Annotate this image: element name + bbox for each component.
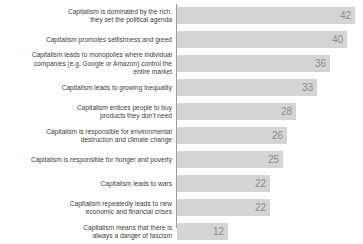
bar-value-label: 42 <box>340 11 351 21</box>
bar: 22 <box>177 175 270 192</box>
bar: 40 <box>177 31 347 48</box>
bar-row: Capitalism leads to monopolies where ind… <box>0 52 363 76</box>
bar-value-label: 40 <box>332 35 343 45</box>
bar-container: 25 <box>177 151 283 168</box>
bar-value-label: 12 <box>213 227 224 237</box>
bar-row: Capitalism leads to growing inequality33 <box>0 76 363 100</box>
bar-row: Capitalism is responsible for hunger and… <box>0 148 363 172</box>
category-label: Capitalism is dominated by the rich, the… <box>0 8 172 25</box>
bar: 33 <box>177 79 317 96</box>
bar-row: Capitalism repeatedly leads to new econo… <box>0 196 363 220</box>
bar-row: Capitalism leads to wars22 <box>0 172 363 196</box>
bar: 26 <box>177 127 287 144</box>
category-label: Capitalism leads to wars <box>0 180 172 188</box>
bar-container: 26 <box>177 127 287 144</box>
category-label: Capitalism means that there is always a … <box>0 224 172 241</box>
bar: 25 <box>177 151 283 168</box>
category-label: Capitalism promotes selfishness and gree… <box>0 36 172 44</box>
bar-container: 22 <box>177 199 270 216</box>
bar-container: 22 <box>177 175 270 192</box>
category-label: Capitalism repeatedly leads to new econo… <box>0 200 172 217</box>
bar-container: 28 <box>177 103 296 120</box>
bar-container: 40 <box>177 31 347 48</box>
bar: 28 <box>177 103 296 120</box>
bar: 12 <box>177 223 228 240</box>
bar-container: 12 <box>177 223 228 240</box>
bar: 36 <box>177 55 330 72</box>
bar: 42 <box>177 7 355 24</box>
category-label: Capitalism entices people to buy product… <box>0 104 172 121</box>
category-label: Capitalism is responsible for environmen… <box>0 128 172 145</box>
bar-value-label: 36 <box>315 59 326 69</box>
category-label: Capitalism leads to growing inequality <box>0 84 172 92</box>
bar: 22 <box>177 199 270 216</box>
bar-value-label: 26 <box>272 131 283 141</box>
bar-row: Capitalism means that there is always a … <box>0 220 363 244</box>
plot-area: Capitalism is dominated by the rich, the… <box>0 0 363 244</box>
bar-value-label: 22 <box>255 203 266 213</box>
category-label: Capitalism leads to monopolies where ind… <box>0 51 172 76</box>
bar-value-label: 25 <box>268 155 279 165</box>
bar-row: Capitalism is responsible for environmen… <box>0 124 363 148</box>
bar-container: 36 <box>177 55 330 72</box>
bar-row: Capitalism is dominated by the rich, the… <box>0 4 363 28</box>
bar-container: 42 <box>177 7 355 24</box>
horizontal-bar-chart: Capitalism is dominated by the rich, the… <box>0 0 363 244</box>
bar-value-label: 28 <box>281 107 292 117</box>
category-label: Capitalism is responsible for hunger and… <box>0 156 172 164</box>
bar-value-label: 22 <box>255 179 266 189</box>
bar-value-label: 33 <box>302 83 313 93</box>
bar-container: 33 <box>177 79 317 96</box>
bar-row: Capitalism entices people to buy product… <box>0 100 363 124</box>
bar-row: Capitalism promotes selfishness and gree… <box>0 28 363 52</box>
